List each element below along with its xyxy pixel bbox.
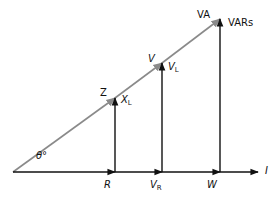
label-v: V bbox=[148, 54, 155, 64]
hypotenuse-va bbox=[162, 19, 220, 63]
phasor-diagram bbox=[0, 0, 280, 197]
label-z: Z bbox=[100, 88, 107, 98]
label-vl: VL bbox=[168, 62, 179, 72]
label-vars: VARs bbox=[228, 18, 253, 28]
hypotenuse-z bbox=[13, 98, 115, 172]
label-w: W bbox=[207, 180, 217, 190]
hypotenuse-v bbox=[115, 63, 162, 98]
label-va: VA bbox=[197, 10, 210, 20]
label-vr: VR bbox=[150, 180, 162, 190]
angle-label: θ° bbox=[36, 151, 47, 161]
label-r: R bbox=[104, 180, 111, 190]
label-xl: XL bbox=[121, 95, 132, 105]
label-i: I bbox=[265, 166, 268, 176]
